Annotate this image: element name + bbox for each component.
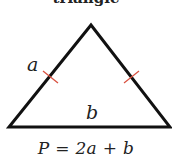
triangle-diagram: a b — [0, 0, 172, 160]
base-label-b: b — [86, 101, 98, 123]
perimeter-formula: P = 2a + b — [0, 138, 172, 158]
side-label-a: a — [27, 53, 38, 75]
